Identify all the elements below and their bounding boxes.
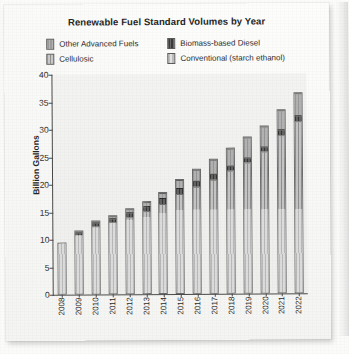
y-axis-tick-mark (50, 295, 54, 296)
bar-segment (176, 180, 183, 188)
legend-swatch-icon (46, 54, 54, 65)
bar-segment (143, 217, 150, 293)
bar-group[interactable]: 2010 (87, 74, 103, 294)
bar-group[interactable]: 2021 (273, 73, 289, 293)
legend-swatch-icon (46, 39, 54, 50)
bar-segment (295, 209, 303, 292)
legend-swatch-icon (167, 38, 175, 49)
legend-label: Biomass-based Diesel (180, 38, 260, 47)
stacked-bar[interactable] (192, 169, 202, 294)
x-axis-tick-label: 2008 (58, 298, 67, 316)
bar-segment (261, 127, 268, 146)
bar-group[interactable]: 2017 (206, 74, 222, 294)
renewable-fuel-chart: Renewable Fuel Standard Volumes by Year … (4, 3, 331, 341)
stacked-bar[interactable] (57, 243, 66, 295)
bar-segment (210, 160, 217, 174)
stacked-bar[interactable] (74, 231, 83, 295)
bar-group[interactable]: 2011 (104, 74, 120, 294)
plot-area: Billion Gallons 0510152025303540 2008200… (51, 73, 307, 296)
bar-segment (294, 93, 301, 115)
y-axis-tick-label: 40 (39, 70, 49, 80)
bar-group[interactable]: 2008 (53, 75, 69, 295)
bar-segment (244, 210, 252, 293)
bar-segment (244, 138, 251, 157)
paper-edge-shadow (336, 2, 349, 336)
bar-segment (261, 152, 268, 210)
bar-group[interactable]: 2019 (239, 73, 255, 293)
x-axis-tick-label: 2018 (227, 297, 236, 315)
bar-group[interactable]: 2022 (290, 73, 306, 293)
bar-segment (160, 204, 167, 214)
y-axis-tick-label: 30 (39, 125, 49, 135)
legend-item[interactable]: Conventional (starch ethanol) (167, 52, 316, 64)
bar-segment (177, 193, 184, 210)
stacked-bar[interactable] (260, 126, 270, 294)
bar-segment (160, 213, 167, 293)
bar-group[interactable]: 2009 (70, 75, 86, 295)
bar-group[interactable]: 2018 (223, 74, 239, 294)
bar-segment (177, 210, 185, 293)
legend-row: CellulosicConventional (starch ethanol) (46, 50, 316, 67)
x-axis-tick-label: 2012 (125, 297, 134, 315)
stacked-bar[interactable] (142, 201, 152, 294)
stacked-bar[interactable] (226, 148, 236, 294)
x-axis-tick-label: 2015 (176, 297, 185, 315)
y-axis-tick-label: 35 (39, 97, 49, 107)
bar-segment (194, 210, 202, 293)
stacked-bar[interactable] (175, 179, 185, 294)
bar-segment (261, 210, 269, 293)
x-axis-tick-label: 2010 (92, 297, 101, 315)
x-axis-tick-label: 2009 (75, 298, 84, 316)
bar-segment (244, 163, 251, 210)
stacked-bar[interactable] (125, 208, 135, 294)
bar-segment (75, 236, 82, 294)
legend-row: Other Advanced FuelsBiomass-based Diesel (46, 35, 316, 52)
bar-group[interactable]: 2013 (138, 74, 154, 294)
legend-item[interactable]: Biomass-based Diesel (167, 37, 316, 49)
bar-group[interactable]: 2012 (121, 74, 137, 294)
stacked-bar[interactable] (108, 215, 117, 294)
x-axis-tick-label: 2021 (278, 296, 287, 314)
bar-segment (210, 179, 217, 209)
y-axis-tick-label: 10 (40, 235, 50, 245)
x-axis-tick-label: 2020 (261, 296, 270, 314)
bar-segment (227, 210, 235, 293)
bar-group[interactable]: 2020 (256, 73, 272, 293)
bar-series-container: 2008200920102011201220132014201520162017… (52, 73, 307, 295)
x-axis-tick-label: 2022 (295, 296, 304, 314)
x-axis-tick-label: 2011 (108, 297, 117, 314)
bar-segment (193, 186, 200, 210)
legend-item[interactable]: Other Advanced Fuels (46, 38, 167, 50)
chart-title: Renewable Fuel Standard Volumes by Year (4, 15, 329, 28)
bar-segment (92, 227, 99, 293)
legend-item[interactable]: Cellulosic (46, 53, 167, 65)
y-axis-tick-label: 15 (40, 207, 50, 217)
stacked-bar[interactable] (293, 92, 303, 293)
x-axis-tick-label: 2013 (142, 297, 151, 315)
bar-segment (278, 135, 285, 210)
legend-swatch-icon (167, 53, 175, 64)
bar-segment (227, 171, 234, 210)
bar-segment (295, 121, 303, 209)
bar-group[interactable]: 2016 (189, 74, 205, 294)
bar-group[interactable]: 2015 (172, 74, 188, 294)
legend-label: Cellulosic (59, 54, 93, 63)
bar-segment (278, 110, 285, 129)
stacked-bar[interactable] (243, 137, 253, 294)
chart-legend: Other Advanced FuelsBiomass-based Diesel… (46, 35, 316, 67)
stacked-bar[interactable] (209, 159, 219, 294)
bar-segment (58, 244, 65, 294)
x-axis-tick-label: 2019 (244, 296, 253, 314)
stacked-bar[interactable] (159, 192, 169, 294)
bar-segment (210, 210, 218, 293)
bar-segment (109, 224, 116, 294)
x-axis-tick-label: 2017 (210, 297, 219, 315)
screenshot-page: Renewable Fuel Standard Volumes by Year … (0, 0, 349, 354)
bar-segment (193, 170, 200, 181)
bar-group[interactable]: 2014 (155, 74, 171, 294)
stacked-bar[interactable] (91, 220, 100, 294)
legend-label: Other Advanced Fuels (59, 39, 138, 48)
legend-label: Conventional (starch ethanol) (180, 53, 285, 63)
x-axis-tick-label: 2016 (193, 297, 202, 315)
stacked-bar[interactable] (277, 109, 287, 293)
